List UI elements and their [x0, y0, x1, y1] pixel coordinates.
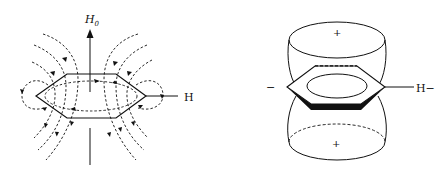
arrowhead-icon	[70, 107, 76, 111]
arrowhead-icon	[42, 107, 47, 111]
arrowhead-icon	[87, 29, 94, 38]
bottom-sign-plus: +	[332, 138, 340, 149]
cone-wall	[378, 96, 386, 142]
cone-wall	[288, 96, 296, 142]
top-sign-plus: +	[333, 27, 341, 38]
benzene-anisotropy-diagram: H0 H	[0, 0, 444, 178]
induced-field-lines	[32, 34, 152, 160]
side-loops	[22, 81, 163, 109]
arrowhead-icon	[94, 79, 100, 83]
hydrogen-label-left: H	[184, 91, 194, 104]
ring-current-loop	[45, 81, 137, 111]
arrowhead-icon	[112, 81, 118, 85]
left-sign-minus: −	[266, 81, 275, 94]
field-label-h0: H0	[84, 13, 100, 28]
right-panel-shielding-cone: + + H− −	[266, 22, 435, 160]
hydrogen-label-right: H−	[416, 82, 435, 95]
left-panel-ring-current: H0 H	[20, 13, 194, 165]
